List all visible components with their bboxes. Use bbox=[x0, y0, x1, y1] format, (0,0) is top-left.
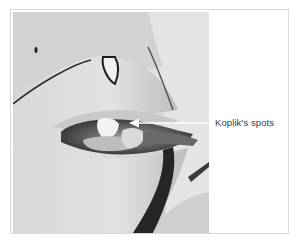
clinical-photo bbox=[13, 12, 209, 233]
photo-illustration bbox=[13, 12, 209, 233]
annotation-label: Koplik's spots bbox=[215, 117, 274, 128]
